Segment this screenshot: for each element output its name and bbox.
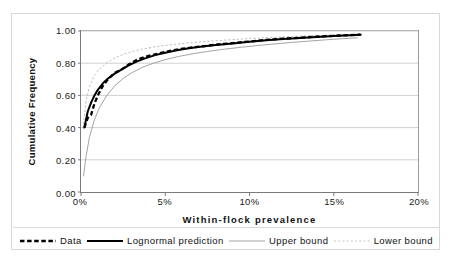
y-tick-label: 0.40 [56, 122, 76, 133]
data-series-layer [81, 31, 418, 192]
series-line [84, 38, 358, 176]
legend-line-swatch [20, 236, 56, 245]
x-tick-label: 0% [73, 196, 88, 207]
legend-label: Data [60, 235, 82, 246]
series-line [84, 35, 360, 128]
legend-line-swatch [334, 236, 370, 245]
plot-area [80, 30, 419, 193]
chart-figure: Cumulative Frequency 0.000.200.400.600.8… [11, 13, 440, 250]
y-tick-label: 1.00 [56, 25, 76, 36]
x-tick-label: 20% [409, 196, 429, 207]
y-tick-label: 0.20 [56, 155, 76, 166]
x-tick-label: 15% [324, 196, 344, 207]
y-tick-label: 0.60 [56, 90, 76, 101]
series-line [84, 34, 358, 124]
x-tick-label: 10% [239, 196, 259, 207]
x-tick-label: 5% [157, 196, 172, 207]
y-axis-tick-labels: 0.000.200.400.600.801.00 [40, 30, 76, 193]
legend-item[interactable]: Lower bound [334, 235, 433, 246]
legend-label: Upper bound [269, 235, 328, 246]
legend-divider [13, 227, 440, 228]
legend-item[interactable]: Upper bound [229, 235, 328, 246]
legend-line-swatch [87, 236, 123, 245]
series-line [84, 35, 360, 128]
legend-item[interactable]: Data [20, 235, 82, 246]
x-axis-title: Within-flock prevalence [80, 214, 419, 225]
chart-legend: DataLognormal predictionUpper boundLower… [16, 232, 437, 249]
y-tick-label: 0.80 [56, 57, 76, 68]
legend-label: Lognormal prediction [127, 235, 224, 246]
legend-line-swatch [229, 236, 265, 245]
legend-label: Lower bound [374, 235, 433, 246]
x-axis-tick-labels: 0%5%10%15%20% [80, 196, 419, 210]
legend-item[interactable]: Lognormal prediction [87, 235, 224, 246]
y-axis-title: Cumulative Frequency [26, 30, 40, 193]
